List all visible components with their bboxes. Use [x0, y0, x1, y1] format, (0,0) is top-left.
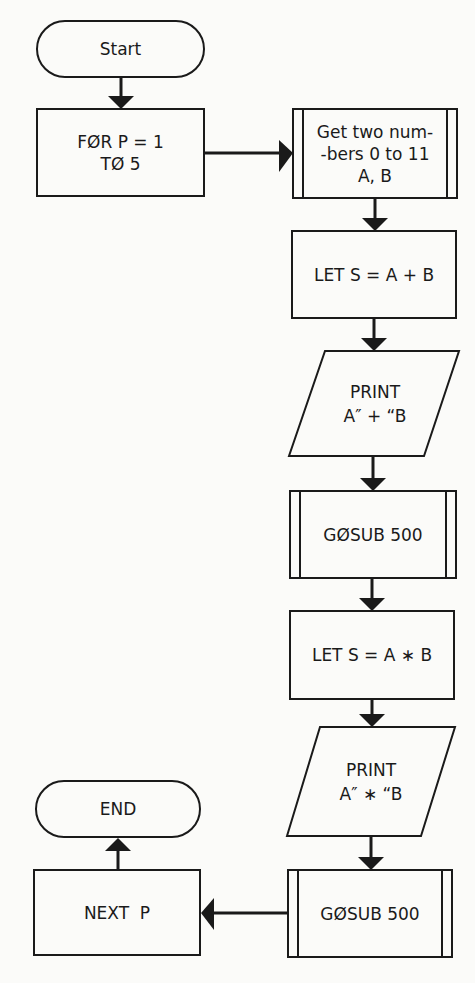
for-loop-box: FØR P = 1 TØ 5 — [36, 108, 205, 197]
gosub-500-second: GØSUB 500 — [287, 869, 453, 958]
next-p-label: NEXT P — [84, 902, 150, 924]
let-product-box: LET S = A ∗ B — [289, 610, 455, 700]
gosub-first-label: GØSUB 500 — [323, 524, 422, 546]
gosub-second-label: GØSUB 500 — [320, 903, 419, 925]
arrowhead-left — [201, 898, 214, 930]
gosub-500-first: GØSUB 500 — [289, 490, 457, 579]
print-product-label: PRINT A″ ∗ “B — [340, 758, 403, 806]
end-terminal: END — [35, 780, 201, 838]
print-sum-label: PRINT A″ + “B — [344, 380, 407, 428]
print-product-io: PRINT A″ ∗ “B — [301, 727, 441, 836]
arrowhead-down — [361, 338, 387, 351]
arrowhead-up — [105, 838, 131, 851]
let-product-label: LET S = A ∗ B — [312, 644, 432, 666]
for-loop-label: FØR P = 1 TØ 5 — [77, 131, 164, 175]
let-sum-box: LET S = A + B — [291, 230, 457, 319]
print-sum-io: PRINT A″ + “B — [305, 351, 445, 456]
end-label: END — [100, 798, 137, 820]
arrowhead-right — [279, 140, 293, 172]
get-numbers-subroutine: Get two num- -bers 0 to 11 A, B — [292, 108, 458, 199]
start-label: Start — [100, 38, 142, 60]
let-sum-label: LET S = A + B — [314, 264, 434, 286]
get-numbers-label: Get two num- -bers 0 to 11 A, B — [317, 121, 433, 187]
next-p-box: NEXT P — [33, 869, 201, 956]
arrowhead-down — [359, 714, 385, 727]
start-terminal: Start — [36, 20, 205, 78]
